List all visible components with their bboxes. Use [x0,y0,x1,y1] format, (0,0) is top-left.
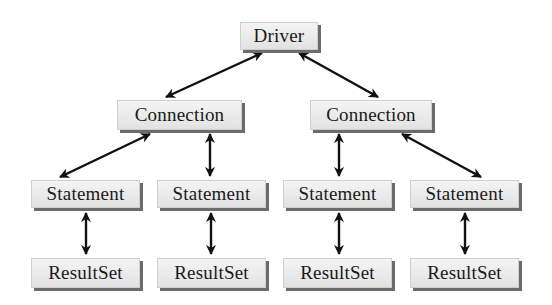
node-connection-1: Connection [117,100,242,130]
node-statement-2: Statement [157,180,266,208]
edge-driver-connection-1 [166,53,262,97]
node-label: Connection [135,104,225,126]
node-label: ResultSet [174,262,249,284]
node-statement-4: Statement [410,180,519,208]
node-connection-2: Connection [310,100,432,130]
edge-connection-1-statement-1 [60,134,150,177]
node-resultset-2: ResultSet [157,258,266,288]
node-label: ResultSet [48,262,123,284]
node-label: Connection [326,104,416,126]
node-label: Statement [47,183,125,205]
node-label: ResultSet [427,262,502,284]
node-statement-1: Statement [31,180,140,208]
edge-driver-connection-2 [299,53,378,97]
node-resultset-1: ResultSet [31,258,140,288]
node-label: Statement [173,183,251,205]
node-label: Statement [426,183,504,205]
node-driver: Driver [240,22,318,50]
node-label: Driver [254,25,305,47]
node-statement-3: Statement [283,180,392,208]
node-label: ResultSet [300,262,375,284]
node-resultset-4: ResultSet [410,258,519,288]
edge-connection-2-statement-4 [402,134,481,177]
node-resultset-3: ResultSet [283,258,392,288]
node-label: Statement [299,183,377,205]
